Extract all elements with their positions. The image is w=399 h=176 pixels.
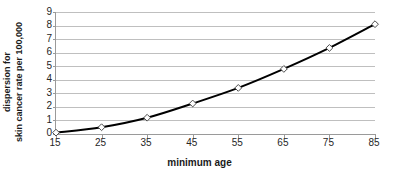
y-axis-title-line-2: skin cancer rate per 100,000 (13, 12, 25, 152)
y-tick-label: 2 (38, 101, 52, 111)
y-tick-label: 7 (38, 34, 52, 44)
y-tick-label: 8 (38, 20, 52, 30)
x-tick-label: 25 (89, 137, 113, 149)
data-series-line (56, 12, 375, 134)
data-point-marker (144, 114, 151, 121)
x-tick-label: 35 (134, 137, 158, 149)
x-axis-title: minimum age (0, 157, 399, 168)
y-axis-title-line-2-text: skin cancer rate per 100,000 (13, 12, 25, 152)
y-tick-label: 6 (38, 47, 52, 57)
y-tick-label: 9 (38, 7, 52, 17)
y-axis-title-line-1-text: dispersion for (1, 12, 13, 152)
series-markers (53, 21, 379, 136)
plot-area (55, 12, 375, 135)
chart-container: dispersion for skin cancer rate per 100,… (0, 0, 399, 176)
x-axis-tick-labels: 15 25 35 45 55 65 75 85 (0, 137, 399, 151)
y-tick-label: 1 (38, 115, 52, 125)
y-tick-label: 4 (38, 74, 52, 84)
y-axis-title-line-1: dispersion for (1, 12, 13, 152)
series-path (56, 24, 375, 132)
data-point-marker (326, 45, 333, 52)
data-point-marker (98, 124, 105, 131)
y-tick-label: 3 (38, 88, 52, 98)
data-point-marker (189, 100, 196, 107)
x-tick-label: 55 (225, 137, 249, 149)
x-tick-label: 15 (43, 137, 67, 149)
x-tick-label: 75 (316, 137, 340, 149)
data-point-marker (235, 85, 242, 92)
x-tick-label: 85 (362, 137, 386, 149)
data-point-marker (372, 21, 379, 28)
x-tick-label: 45 (180, 137, 204, 149)
data-point-marker (53, 129, 60, 136)
data-point-marker (280, 66, 287, 73)
x-tick-label: 65 (271, 137, 295, 149)
y-tick-label: 5 (38, 61, 52, 71)
